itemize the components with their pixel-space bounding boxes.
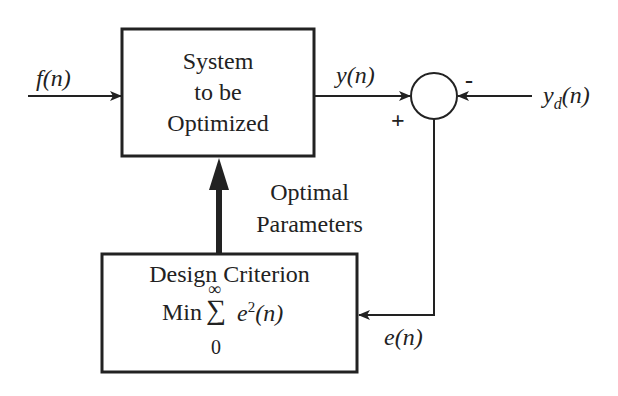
sum-symbol: ∑: [206, 296, 226, 324]
summing-junction-circle: [411, 73, 457, 119]
criterion-title: Design Criterion: [102, 262, 357, 286]
adaptive-optimization-diagram: System to be Optimized f(n) y(n) yd(n) +…: [0, 0, 618, 396]
desired-signal-label: yd(n): [543, 83, 590, 112]
system-line3: Optimized: [122, 108, 314, 139]
sum-lower-limit: 0: [211, 337, 221, 357]
parameters-label: Optimal Parameters: [247, 176, 372, 240]
sum-upper-limit: ∞: [208, 280, 221, 298]
desired-arg: (n): [562, 82, 590, 108]
input-name: f: [36, 65, 43, 91]
criterion-min: Min: [162, 300, 202, 324]
input-arg: (n): [43, 65, 71, 91]
plus-sign: +: [391, 108, 405, 132]
system-block-label: System to be Optimized: [122, 46, 314, 139]
output-name: y: [336, 62, 347, 88]
system-line1: System: [122, 46, 314, 77]
term-name: e: [237, 300, 248, 326]
input-signal-label: f(n): [36, 66, 71, 90]
output-signal-label: y(n): [336, 63, 375, 87]
desired-name: y: [543, 82, 554, 108]
parameters-line1: Optimal: [247, 176, 372, 208]
error-signal-label: e(n): [384, 325, 423, 349]
error-arg: (n): [395, 324, 423, 350]
minus-sign: -: [465, 68, 473, 92]
parameter-arrow-head: [209, 158, 229, 190]
system-line2: to be: [122, 77, 314, 108]
error-name: e: [384, 324, 395, 350]
parameters-line2: Parameters: [247, 208, 372, 240]
term-arg: (n): [255, 300, 283, 326]
criterion-term: e2(n): [237, 300, 283, 325]
desired-sub: d: [554, 95, 562, 112]
output-arg: (n): [347, 62, 375, 88]
